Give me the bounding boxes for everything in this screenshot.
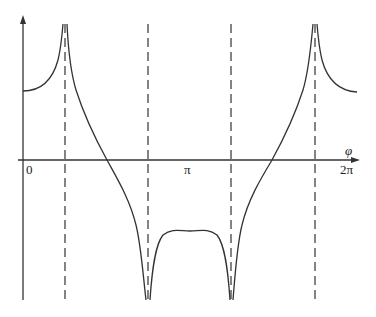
- two-pi-label: 2π: [340, 163, 353, 176]
- origin-label: 0: [26, 163, 33, 176]
- curve-seg-1: [23, 24, 63, 91]
- curve-seg-3: [150, 230, 230, 300]
- y-axis-arrow-icon: [20, 15, 26, 24]
- phi-axis-label: φ: [345, 144, 352, 157]
- pi-label: π: [184, 163, 191, 176]
- curve-seg-4: [233, 24, 313, 300]
- chart-canvas: [0, 0, 376, 317]
- curve-seg-2: [67, 24, 146, 300]
- curve-seg-5: [317, 24, 357, 92]
